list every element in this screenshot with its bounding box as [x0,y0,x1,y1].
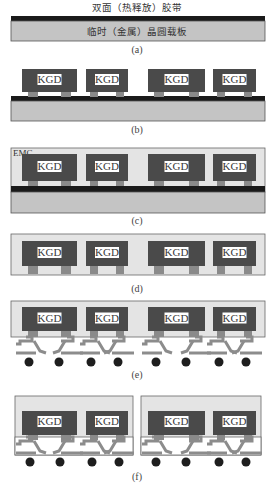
kgd-label: KGD [95,312,119,324]
rdl-via [104,341,116,353]
step-f: KGDKGDKGDKGD (f) [15,396,262,483]
caption-e: (e) [131,369,142,381]
rdl-trace [142,337,158,344]
solder-ball [26,458,35,467]
bond-pad [61,435,71,440]
rdl-trace [61,337,73,341]
tape-layer [11,16,265,21]
bond-pad [90,266,98,274]
bond-pad [217,181,225,186]
bond-pad [90,92,98,97]
rdl-trace [16,337,32,344]
solder-ball [242,358,251,367]
bond-pad [28,266,38,274]
carrier-label: 临时（金属）晶圆载板 [87,26,187,37]
caption-c: (c) [131,215,142,227]
step-a: 临时（金属）晶圆载板 (a) [11,16,265,56]
bond-pad [189,435,199,440]
bond-pad [28,181,38,186]
bond-pad [189,331,199,337]
tape-layer [11,186,265,192]
solder-ball [215,458,224,467]
bond-pad [217,92,225,97]
solder-ball [182,358,191,367]
solder-ball [242,458,251,467]
rdl-trace [207,337,223,344]
bond-pad [244,181,252,186]
bond-pad [116,435,124,440]
solder-ball [215,358,224,367]
bond-pad [189,92,199,97]
bond-pad [244,331,252,337]
caption-d: (d) [131,283,143,295]
rdl-trace-set [207,337,262,353]
kgd-label: KGD [38,160,62,172]
bond-pad [61,331,71,337]
bond-pad [116,92,124,97]
kgd-label: KGD [95,415,119,427]
bond-pad [90,181,98,186]
step-c: EMC KGDKGDKGDKGD (c) [11,148,265,227]
bond-pad [61,266,71,274]
solder-ball [25,358,34,367]
rdl-via [181,341,193,353]
bond-pad [61,92,71,97]
step-e: KGDKGDKGDKGD (e) [11,301,265,381]
bond-pad [61,181,71,186]
bond-pad [217,435,225,440]
die-1: KGD [22,69,77,97]
bond-pad [154,331,164,337]
rdl-trace-set [142,337,211,353]
bond-pad [90,435,98,440]
bond-pad [244,266,252,274]
rdl-via [160,341,172,353]
tape-layer [11,96,265,101]
solder-ball [56,458,65,467]
kgd-label: KGD [223,160,247,172]
solder-ball [87,358,96,367]
caption-f: (f) [132,471,142,483]
bond-pad [28,92,38,97]
bond-pad [189,266,199,274]
package-1: KGDKGD [15,396,134,467]
bond-pad [154,92,164,97]
bond-pad [244,435,252,440]
bond-pad [90,331,98,337]
caption-a: (a) [131,44,142,56]
bond-pad [217,331,225,337]
bond-pad [116,266,124,274]
kgd-label: KGD [223,246,247,258]
kgd-label: KGD [165,415,189,427]
bond-pad [28,435,38,440]
carrier-wafer [11,192,265,213]
kgd-label: KGD [165,73,189,85]
bond-pad [154,435,164,440]
bond-pad [116,331,124,337]
kgd-label: KGD [223,73,247,85]
kgd-label: KGD [38,246,62,258]
caption-b: (b) [131,124,143,136]
package-2: KGDKGD [141,396,262,467]
kgd-label: KGD [38,312,62,324]
solder-ball [114,358,123,367]
die-2: KGD [86,69,128,97]
bond-pad [189,181,199,186]
solder-ball [88,458,97,467]
carrier-wafer [11,101,265,121]
bond-pad [154,181,164,186]
solder-ball [152,458,161,467]
step-b: KGDKGDKGDKGD (b) [11,69,265,136]
kgd-label: KGD [38,415,62,427]
kgd-label: KGD [165,312,189,324]
rdl-trace [112,337,124,341]
bond-pad [154,266,164,274]
bond-pad [116,181,124,186]
kgd-label: KGD [95,246,119,258]
solder-ball [182,458,191,467]
step-d: KGDKGDKGDKGD (d) [11,234,265,295]
fan-out-wlp-process-diagram: 双面（热释放）胶带 临时（金属）晶圆载板 (a) KGDKGDKGDKGD (b… [0,0,274,489]
rdl-trace [189,337,201,341]
solder-ball [55,358,64,367]
rdl-via [232,341,244,353]
bond-pad [28,331,38,337]
